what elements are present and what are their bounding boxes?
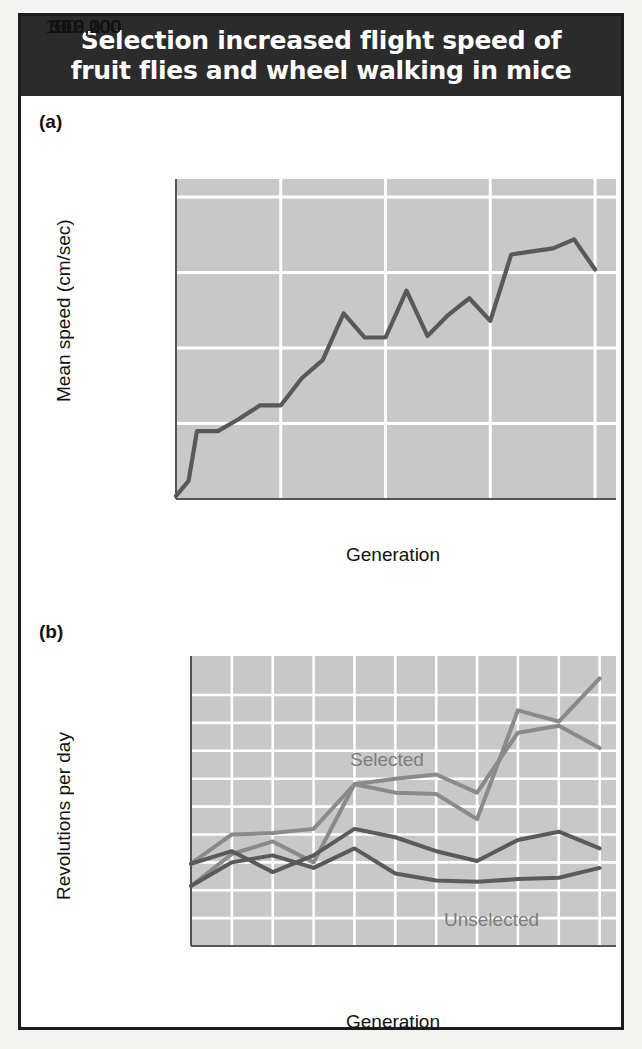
panel-b-chart xyxy=(173,648,618,966)
panel-a-chart xyxy=(158,171,618,521)
plot-background xyxy=(176,179,616,499)
series-label-selected: Selected xyxy=(350,749,424,771)
panel-a-y-axis-label: Mean speed (cm/sec) xyxy=(53,186,75,436)
figure-panel: Selection increased flight speed of frui… xyxy=(18,13,624,1030)
panel-b-y-axis-label: Revolutions per day xyxy=(53,681,75,951)
panel-a-tag: (a) xyxy=(39,111,62,133)
panel-b-tag: (b) xyxy=(39,621,63,643)
plot-background xyxy=(191,656,616,946)
panel-b-x-axis-label: Generation xyxy=(243,1011,543,1033)
x-tick-label: 10 xyxy=(21,16,101,38)
series-label-unselected: Unselected xyxy=(444,909,539,931)
page-title: Selection increased flight speed of frui… xyxy=(61,26,581,87)
panel-a-x-axis-label: Generation xyxy=(243,544,543,566)
